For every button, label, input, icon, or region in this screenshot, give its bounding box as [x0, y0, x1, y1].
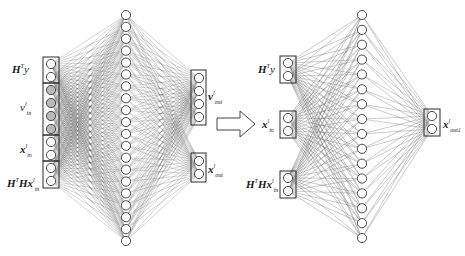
transform-arrow-icon [217, 111, 255, 137]
label-right-xin: xlin [262, 118, 274, 132]
label-left-vout: vlout [208, 90, 222, 104]
label-left-hty: HTy [12, 63, 29, 75]
label-left-xin: xlin [20, 143, 32, 157]
label-left-hthxin: HTHxlin [7, 177, 39, 191]
label-right-xout: xlout1 [443, 118, 461, 132]
label-left-vin: vlin [20, 101, 31, 115]
label-right-hty: HTy [258, 63, 275, 75]
label-right-hthxin: HTHxlin [246, 178, 278, 192]
network-diagram [0, 0, 465, 256]
label-left-xout: xlout [208, 163, 223, 177]
